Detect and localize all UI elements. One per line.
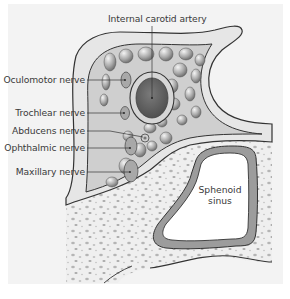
- label-internal-carotid-artery: Internal carotid artery: [108, 13, 207, 24]
- label-trochlear-nerve: Trochlear nerve: [15, 107, 85, 118]
- label-oculomotor-nerve: Oculomotor nerve: [3, 74, 85, 85]
- maxillary-nerve-shape: [124, 160, 138, 182]
- label-sphenoid-sinus-line1: Sphenoid: [190, 184, 250, 195]
- label-ophthalmic-nerve: Ophthalmic nerve: [4, 142, 85, 153]
- label-sphenoid-sinus: Sphenoid sinus: [190, 184, 250, 206]
- label-sphenoid-sinus-line2: sinus: [190, 195, 250, 206]
- label-maxillary-nerve: Maxillary nerve: [16, 166, 85, 177]
- ophthalmic-nerve-shape: [125, 137, 137, 155]
- label-abducens-nerve: Abducens nerve: [12, 125, 85, 136]
